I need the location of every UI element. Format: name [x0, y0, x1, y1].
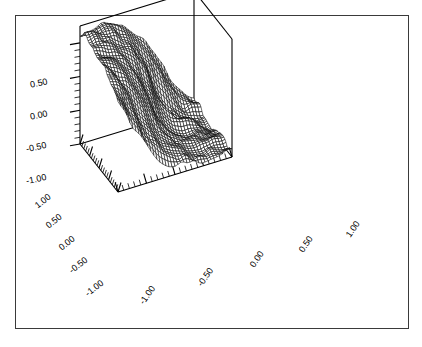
tick-mark	[139, 180, 141, 185]
tick-mark	[75, 90, 81, 91]
tick-mark	[103, 168, 105, 173]
tick-mark	[109, 171, 112, 181]
mesh-cell	[198, 107, 202, 112]
tick-mark	[105, 170, 107, 175]
tick-mark	[97, 160, 99, 165]
tick-mark	[196, 162, 198, 167]
tick-mark	[84, 144, 86, 149]
box-edge	[80, 0, 194, 26]
tick-mark	[118, 183, 121, 193]
tick-mark	[70, 110, 80, 112]
tick-mark	[162, 173, 164, 178]
tick-mark	[185, 166, 187, 171]
tick-mark	[101, 165, 103, 170]
tick-mark	[144, 174, 147, 184]
figure-canvas: 0.500.00-0.50-1.00 1.000.500.00-0.50-1.0…	[0, 0, 422, 347]
tick-mark	[95, 158, 97, 163]
tick-mark	[156, 174, 158, 179]
tick-mark	[75, 104, 81, 105]
tick-mark	[75, 50, 81, 51]
tick-mark	[88, 148, 90, 153]
tick-mark	[70, 144, 80, 146]
tick-mark	[122, 185, 124, 190]
tick-mark	[86, 146, 88, 151]
tick-mark	[112, 180, 114, 185]
tick-mark	[134, 181, 136, 186]
tick-mark	[191, 164, 193, 169]
tick-mark	[70, 43, 80, 45]
tick-mark	[151, 176, 153, 181]
wireframe-mesh	[80, 22, 232, 167]
tick-mark	[70, 77, 80, 79]
tick-mark	[179, 167, 181, 172]
tick-mark	[225, 153, 227, 158]
tick-mark	[91, 153, 93, 158]
tick-mark	[75, 117, 81, 118]
tick-mark	[75, 124, 81, 125]
mesh-cell	[197, 104, 201, 107]
tick-mark	[107, 172, 109, 177]
tick-mark	[90, 147, 93, 157]
box-edge	[194, 0, 232, 39]
tick-mark	[93, 156, 95, 161]
tick-mark	[75, 63, 81, 64]
tick-mark	[75, 137, 81, 138]
mesh-cell	[228, 148, 232, 149]
tick-mark	[75, 70, 81, 71]
surface-plot-svg	[0, 0, 422, 347]
tick-mark	[99, 159, 102, 169]
tick-mark	[219, 155, 221, 160]
tick-mark	[75, 83, 81, 84]
tick-mark	[110, 177, 112, 182]
tick-mark	[75, 97, 81, 98]
tick-mark	[75, 56, 81, 57]
tick-mark	[75, 131, 81, 132]
tick-mark	[168, 171, 170, 176]
tick-mark	[128, 183, 130, 188]
